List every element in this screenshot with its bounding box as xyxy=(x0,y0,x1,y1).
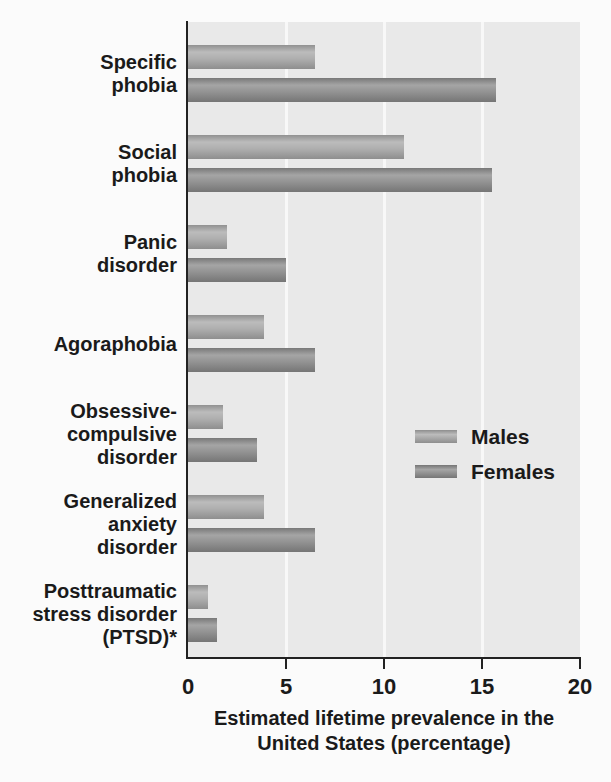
bar-females-7 xyxy=(188,618,217,642)
x-axis-title: Estimated lifetime prevalence in the Uni… xyxy=(188,706,580,756)
category-label-1: Specific phobia xyxy=(0,51,177,97)
legend-label-males: Males xyxy=(471,425,529,449)
males-swatch-icon xyxy=(415,430,457,443)
gridline-15 xyxy=(481,22,484,657)
plot-area xyxy=(188,22,580,657)
tick-label-10: 10 xyxy=(354,674,414,700)
category-label-2: Social phobia xyxy=(0,141,177,187)
legend-row-males: Males xyxy=(415,422,555,451)
gridline-10 xyxy=(383,22,386,657)
bar-females-2 xyxy=(188,168,492,192)
tick-mark-15 xyxy=(481,659,483,669)
category-label-6: Generalized anxiety disorder xyxy=(0,489,177,558)
legend-label-females: Females xyxy=(471,460,555,484)
tick-label-20: 20 xyxy=(550,674,610,700)
tick-label-0: 0 xyxy=(158,674,218,700)
bar-males-4 xyxy=(188,315,264,339)
category-label-5: Obsessive- compulsive disorder xyxy=(0,399,177,468)
bar-females-3 xyxy=(188,258,286,282)
bar-males-1 xyxy=(188,45,315,69)
bar-females-6 xyxy=(188,528,315,552)
category-label-3: Panic disorder xyxy=(0,231,177,277)
tick-label-15: 15 xyxy=(452,674,512,700)
bar-females-5 xyxy=(188,438,257,462)
tick-label-5: 5 xyxy=(256,674,316,700)
bar-males-6 xyxy=(188,495,264,519)
bar-males-3 xyxy=(188,225,227,249)
tick-mark-10 xyxy=(383,659,385,669)
bar-females-4 xyxy=(188,348,315,372)
bar-females-1 xyxy=(188,78,496,102)
y-axis-line xyxy=(186,21,188,659)
tick-mark-20 xyxy=(579,659,581,669)
category-label-4: Agoraphobia xyxy=(0,332,177,355)
category-label-7: Posttraumatic stress disorder (PTSD)* xyxy=(0,579,177,648)
prevalence-bar-chart-figure: Specific phobiaSocial phobiaPanic disord… xyxy=(0,0,611,782)
legend-row-females: Females xyxy=(415,457,555,486)
bar-males-5 xyxy=(188,405,223,429)
females-swatch-icon xyxy=(415,465,457,478)
gridline-5 xyxy=(285,22,288,657)
legend: Males Females xyxy=(415,422,555,492)
bar-males-7 xyxy=(188,585,208,609)
tick-mark-5 xyxy=(285,659,287,669)
bar-males-2 xyxy=(188,135,404,159)
